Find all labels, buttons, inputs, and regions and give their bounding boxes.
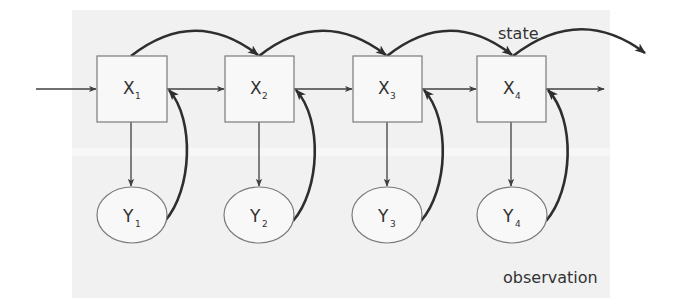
- svg-text:1: 1: [135, 91, 141, 101]
- observation-node-y4: Y 4: [477, 187, 547, 243]
- svg-text:X: X: [503, 78, 515, 98]
- region-divider: [72, 148, 610, 156]
- svg-text:3: 3: [390, 219, 396, 229]
- svg-text:X: X: [378, 78, 390, 98]
- svg-text:2: 2: [262, 219, 268, 229]
- state-node-x4: X 4: [477, 56, 546, 122]
- observation-node-y3: Y 3: [352, 187, 422, 243]
- observation-node-y1: Y 1: [97, 187, 167, 243]
- svg-text:Y: Y: [377, 206, 389, 226]
- hmm-diagram: X 1 X 2 X 3 X 4 Y 1 Y 2 Y 3 Y 4 state ob…: [0, 0, 681, 307]
- svg-text:Y: Y: [502, 206, 514, 226]
- state-node-x2: X 2: [225, 56, 294, 122]
- svg-text:X: X: [250, 78, 262, 98]
- svg-text:Y: Y: [122, 206, 134, 226]
- observation-label: observation: [503, 268, 598, 287]
- svg-text:4: 4: [515, 219, 521, 229]
- svg-text:Y: Y: [249, 206, 261, 226]
- state-node-x3: X 3: [353, 56, 422, 122]
- svg-text:X: X: [123, 78, 135, 98]
- svg-text:4: 4: [515, 91, 521, 101]
- svg-text:1: 1: [135, 219, 141, 229]
- observation-node-y2: Y 2: [224, 187, 294, 243]
- svg-text:3: 3: [390, 91, 396, 101]
- state-node-x1: X 1: [97, 56, 167, 122]
- state-label: state: [498, 24, 539, 43]
- svg-text:2: 2: [262, 91, 268, 101]
